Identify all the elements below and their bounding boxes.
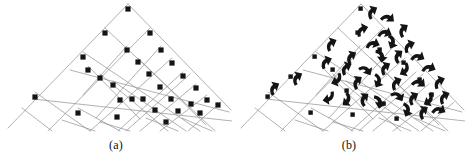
lattice-diagram-a <box>0 0 232 132</box>
panel-label-b: (b) <box>233 138 465 152</box>
panel-b: (b) <box>233 0 465 156</box>
panel-label-a: (a) <box>0 138 232 152</box>
panel-a: (a) <box>0 0 232 156</box>
lattice-arrows-b <box>266 3 453 120</box>
lattice-nodes-a <box>32 6 220 124</box>
figure-root: (a) <box>0 0 465 156</box>
lattice-diagram-b <box>233 0 465 132</box>
